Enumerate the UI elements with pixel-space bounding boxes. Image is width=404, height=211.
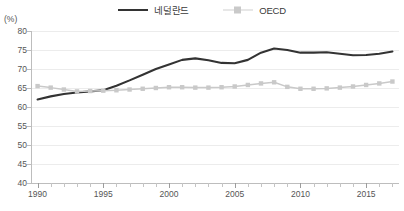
x-axis-tick (182, 183, 183, 187)
x-axis-tick (261, 183, 262, 187)
series-marker (233, 84, 237, 88)
series-marker (390, 79, 394, 83)
x-axis-tick (90, 183, 91, 187)
x-axis-tick-label: 2005 (225, 189, 244, 199)
series-marker (88, 89, 92, 93)
series-marker (62, 87, 66, 91)
x-axis-tick (51, 183, 52, 187)
x-axis-tick-label: 2015 (357, 189, 376, 199)
series-oecd (35, 79, 394, 93)
x-axis-tick (156, 183, 157, 187)
y-axis-tick-label: 60 (3, 102, 27, 112)
x-axis-tick (38, 183, 39, 188)
series-marker (351, 84, 355, 88)
series-marker (75, 89, 79, 93)
series-marker (141, 87, 145, 91)
series-marker (154, 86, 158, 90)
legend-label-netherlands: 네덜란드 (154, 3, 189, 17)
x-axis-tick (77, 183, 78, 187)
series-marker (49, 85, 53, 89)
series-marker (219, 85, 223, 89)
x-axis-tick (222, 183, 223, 187)
series-marker (259, 81, 263, 85)
series-marker (206, 85, 210, 89)
y-axis-tick-label: 50 (3, 140, 27, 150)
x-axis-tick (169, 183, 170, 188)
y-axis-tick-label: 55 (3, 121, 27, 131)
x-axis-tick (235, 183, 236, 188)
x-axis-tick (64, 183, 65, 187)
x-axis-tick-label: 2000 (160, 189, 179, 199)
y-axis-unit-label: (%) (4, 14, 17, 24)
y-axis-tick-label: 75 (3, 45, 27, 55)
y-axis-labels: 404550556065707580 (0, 31, 27, 183)
series-marker (311, 87, 315, 91)
series-marker (298, 87, 302, 91)
x-axis-tick (248, 183, 249, 187)
x-axis-tick (208, 183, 209, 187)
x-axis-tick (195, 183, 196, 187)
x-axis-tick (300, 183, 301, 188)
x-axis-tick (274, 183, 275, 187)
x-axis-tick (340, 183, 341, 187)
series-marker (285, 85, 289, 89)
x-axis-tick (379, 183, 380, 187)
x-axis-tick (314, 183, 315, 187)
x-axis-tick (366, 183, 367, 188)
x-axis-line (31, 183, 399, 184)
series-marker (114, 88, 118, 92)
chart-legend: 네덜란드 OECD (0, 2, 404, 18)
series-marker (364, 83, 368, 87)
x-axis-tick (392, 183, 393, 187)
series-marker (180, 85, 184, 89)
legend-label-oecd: OECD (259, 5, 286, 16)
series-marker (193, 85, 197, 89)
series-marker (167, 85, 171, 89)
x-axis-tick (116, 183, 117, 187)
line-chart: 네덜란드 OECD (%) 404550556065707580 1990199… (0, 0, 404, 211)
series-marker (127, 87, 131, 91)
x-axis-tick-label: 1995 (94, 189, 113, 199)
x-axis-tick (353, 183, 354, 187)
y-axis-tick-label: 45 (3, 159, 27, 169)
legend-item-netherlands[interactable]: 네덜란드 (118, 3, 189, 17)
chart-series-layer (31, 31, 399, 183)
x-axis-tick-label: 2010 (291, 189, 310, 199)
y-axis-tick-label: 80 (3, 26, 27, 36)
series-marker (325, 86, 329, 90)
x-axis-tick (143, 183, 144, 187)
series-marker (101, 88, 105, 92)
series-marker (272, 80, 276, 84)
series-marker (246, 83, 250, 87)
x-axis-tick (103, 183, 104, 188)
series-marker (377, 81, 381, 85)
series-marker (35, 84, 39, 88)
y-axis-tick-label: 70 (3, 64, 27, 74)
x-axis-tick (327, 183, 328, 187)
legend-item-oecd[interactable]: OECD (223, 5, 286, 16)
x-axis-tick (130, 183, 131, 187)
x-axis-tick-label: 1990 (28, 189, 47, 199)
legend-swatch-line-icon (118, 6, 148, 15)
y-axis-tick-label: 40 (3, 178, 27, 188)
series-marker (338, 85, 342, 89)
y-axis-tick-label: 65 (3, 83, 27, 93)
x-axis-tick (287, 183, 288, 187)
legend-swatch-line-marker-icon (223, 6, 253, 15)
